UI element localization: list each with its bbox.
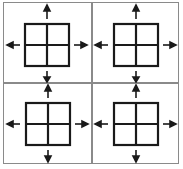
panel-bottom-left bbox=[4, 84, 92, 164]
grid-with-arrows-icon bbox=[92, 84, 180, 164]
panel-bottom-right bbox=[92, 84, 180, 164]
grid-with-arrows-icon bbox=[4, 84, 92, 164]
grid-with-arrows-icon bbox=[92, 3, 180, 83]
grid-with-arrows-icon bbox=[4, 3, 92, 83]
panel-top-right bbox=[92, 3, 180, 83]
panel-top-left bbox=[4, 3, 92, 83]
